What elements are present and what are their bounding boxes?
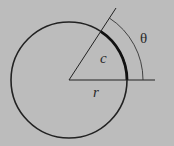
theta-label: θ [140, 30, 147, 46]
circle-arc-diagram: θ c r [0, 0, 174, 146]
background [0, 0, 174, 146]
arc-length-label: c [100, 50, 107, 66]
radius-label: r [93, 84, 99, 100]
